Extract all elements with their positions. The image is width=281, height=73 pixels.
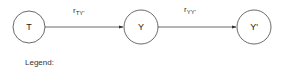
edge-label-r-yy: rYY' <box>184 5 196 15</box>
edge-y-to-yprime: rYY' <box>158 5 236 27</box>
node-y-prime: Y' <box>237 10 271 44</box>
node-label-y: Y <box>138 22 144 32</box>
node-t: T <box>13 11 45 43</box>
node-label-y-prime: Y' <box>250 22 258 32</box>
node-y: Y <box>124 10 158 44</box>
edge-t-to-y: rTY' <box>45 6 123 27</box>
edge-label-r-ty: rTY' <box>73 6 84 16</box>
legend-title: Legend: <box>25 58 54 67</box>
node-label-t: T <box>26 22 32 32</box>
